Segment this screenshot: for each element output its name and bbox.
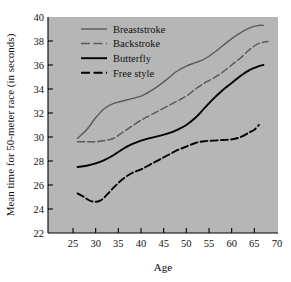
legend-label-breaststroke: Breaststroke — [113, 24, 166, 35]
legend-label-butterfly: Butterfly — [113, 53, 152, 64]
y-tick-label: 26 — [34, 180, 45, 191]
y-tick-label: 32 — [34, 108, 45, 119]
y-tick-label: 22 — [34, 228, 45, 239]
y-tick-label: 30 — [34, 132, 45, 143]
y-tick-label: 36 — [34, 60, 45, 71]
x-tick-label: 50 — [181, 238, 192, 249]
x-tick-label: 35 — [113, 238, 124, 249]
y-tick-label: 28 — [34, 156, 45, 167]
legend-label-free-style: Free style — [113, 68, 154, 79]
x-tick-label: 70 — [272, 238, 283, 249]
x-tick-label: 55 — [204, 238, 215, 249]
chart-container: 22242628303234363840 2530354045505560657… — [0, 0, 291, 282]
x-tick-label: 30 — [90, 238, 101, 249]
y-tick-label: 34 — [34, 84, 45, 95]
x-axis-title: Age — [154, 261, 172, 273]
y-tick-label: 38 — [34, 36, 45, 47]
x-tick-label: 65 — [249, 238, 260, 249]
y-axis-title: Mean time for 50-meter race (in seconds) — [4, 33, 17, 216]
swim-times-line-chart: 22242628303234363840 2530354045505560657… — [0, 0, 291, 282]
y-tick-label: 24 — [34, 204, 45, 215]
x-tick-label: 40 — [136, 238, 147, 249]
x-tick-label: 25 — [68, 238, 79, 249]
x-tick-label: 45 — [158, 238, 169, 249]
y-tick-label: 40 — [34, 12, 45, 23]
legend-label-backstroke: Backstroke — [113, 38, 161, 49]
plot-area-background — [48, 17, 278, 233]
x-tick-label: 60 — [226, 238, 237, 249]
